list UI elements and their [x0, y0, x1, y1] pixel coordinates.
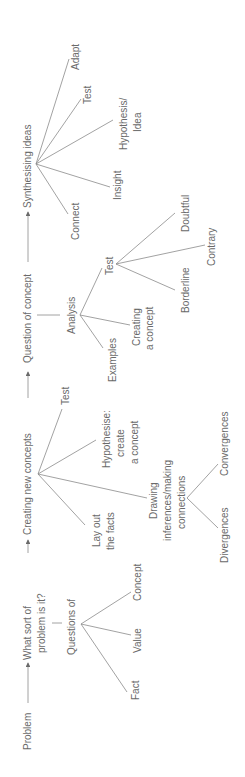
node-layout-line1: Lay out [91, 514, 102, 547]
node-doubtful: Doubtful [180, 195, 191, 232]
node-hypothesise-line2: create [115, 429, 126, 457]
node-value: Value [132, 628, 143, 653]
node-creating-new-concepts: Creating new concepts [22, 433, 33, 535]
node-creating-test: Test [60, 386, 71, 405]
node-analysis-test: Test [104, 256, 115, 275]
node-hypothesis-line2: Idea [132, 112, 143, 132]
edge-questions-value [81, 624, 131, 635]
node-concept: Concept [132, 564, 143, 601]
edge-creating-test [38, 409, 62, 474]
node-layout-line2: the facts [105, 512, 116, 550]
node-examples: Examples [107, 338, 118, 382]
edge-questions-fact [81, 624, 127, 692]
node-synthesising-ideas: Synthesising ideas [22, 125, 33, 208]
edge-analysis-creating [80, 315, 130, 325]
node-drawing-line2: inferences/making [162, 460, 173, 541]
node-drawing-line3: connections [176, 476, 187, 529]
problem-solving-diagram: Problem What sort of problem is it? Crea… [0, 0, 245, 777]
node-drawing-line1: Drawing [148, 482, 159, 519]
node-divergences: Divergences [219, 507, 230, 563]
edge-test-contrary [116, 245, 205, 264]
node-hypothesise-line1: Hypothesise: [101, 410, 112, 468]
node-synth-test: Test [82, 85, 93, 104]
node-convergences: Convergences [219, 412, 230, 476]
node-question-of-concept: Question of concept [22, 274, 33, 363]
edge-analysis-test [80, 268, 102, 315]
edge-questions-concept [81, 592, 131, 624]
node-fact: Fact [130, 680, 141, 700]
edge-drawing-convergences [187, 464, 218, 498]
edge-test-doubtful [116, 213, 175, 264]
edge-synth-insight [36, 164, 110, 187]
edge-analysis-examples [80, 315, 103, 348]
edge-test-borderline [116, 264, 175, 290]
node-hypothesise-line3: a concept [129, 420, 140, 464]
node-problem: Problem [22, 713, 33, 750]
node-insight: Insight [112, 170, 123, 200]
node-hypothesis-line1: Hypothesis/ [118, 98, 129, 150]
edge-creating-layout [38, 474, 85, 525]
node-contrary: Contrary [206, 228, 217, 266]
node-creating-line1: Creating [131, 308, 142, 346]
node-what-sort-line1: What sort of [22, 606, 33, 660]
node-borderline: Borderline [180, 267, 191, 313]
edge-drawing-divergences [187, 498, 218, 528]
node-what-sort-line2: problem is it? [36, 593, 47, 653]
node-analysis: Analysis [66, 297, 77, 334]
edge-synth-test [36, 99, 81, 164]
node-adapt: Adapt [70, 44, 81, 70]
edge-creating-drawing [38, 474, 147, 498]
edge-creating-hypothesise [38, 440, 96, 474]
node-questions-of: Questions of [66, 599, 77, 655]
node-connect: Connect [70, 203, 81, 240]
edge-synth-connect [36, 164, 68, 214]
node-creating-line2: a concept [144, 306, 155, 350]
